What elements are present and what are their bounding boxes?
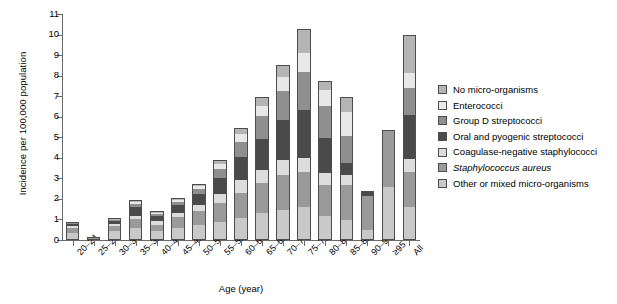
bar-segment: [256, 116, 268, 138]
legend-item[interactable]: Oral and pyogenic streptococci: [438, 129, 616, 145]
bar-segment: [214, 194, 226, 203]
legend-item[interactable]: Other or mixed micro-organisms: [438, 176, 616, 192]
bar-segment: [256, 139, 268, 170]
bar-segment: [277, 210, 289, 239]
legend-item-label: No micro-organisms: [453, 85, 538, 95]
bar-segment: [341, 98, 353, 112]
bar-6064[interactable]: [234, 128, 248, 240]
bar-7579[interactable]: [297, 29, 311, 240]
y-tick-label: 7: [54, 90, 59, 101]
legend-item-label: Other or mixed micro-organisms: [453, 179, 589, 189]
bar-segment: [214, 222, 226, 239]
bar-segment: [319, 173, 331, 185]
stacked-bar-chart-figure: Incidence per 100,000 population 0123456…: [0, 0, 617, 304]
bar-2024[interactable]: [66, 222, 80, 240]
x-tick-mark: [73, 241, 74, 246]
legend-item[interactable]: Staphylococcus aureus: [438, 160, 616, 176]
bar-5054[interactable]: [192, 184, 206, 241]
bar-segment: [319, 138, 331, 174]
bar-segment: [256, 213, 268, 239]
y-tick-label: 3: [54, 172, 59, 183]
y-tick-label: 5: [54, 131, 59, 142]
bar-5559[interactable]: [213, 160, 227, 240]
bar-2529[interactable]: [87, 237, 101, 240]
y-axis-line: [62, 14, 63, 240]
bar-4549[interactable]: [171, 198, 185, 240]
bar-segment: [319, 82, 331, 90]
legend-item-label: Oral and pyogenic streptococci: [453, 132, 583, 142]
bar-segment: [256, 106, 268, 116]
bar-segment: [383, 187, 395, 239]
x-tick-mark: [241, 241, 242, 246]
bar-segment: [362, 230, 374, 239]
y-tick-label: 0: [54, 234, 59, 245]
bar-segment: [109, 231, 121, 239]
bar-segment: [319, 106, 331, 137]
bar-4044[interactable]: [150, 211, 164, 240]
bar-segment: [404, 207, 416, 239]
x-tick-mark: [199, 241, 200, 246]
bar-segment: [130, 219, 142, 228]
bar-8589[interactable]: [340, 97, 354, 240]
legend-item[interactable]: Group D streptococci: [438, 113, 616, 129]
bar-segment: [404, 36, 416, 74]
y-tick-label: 10: [48, 28, 59, 39]
x-tick-mark: [136, 241, 137, 246]
y-axis-title: Incidence per 100,000 population: [17, 14, 28, 234]
bar-95[interactable]: [382, 130, 396, 240]
x-tick-mark: [220, 241, 221, 246]
y-tick-label: 2: [54, 192, 59, 203]
bar-segment: [319, 216, 331, 239]
bar-segment: [319, 90, 331, 106]
x-tick-mark: [367, 241, 368, 246]
bar-segment: [298, 72, 310, 110]
bar-segment: [256, 170, 268, 183]
y-tick-label: 1: [54, 213, 59, 224]
bar-segment: [172, 217, 184, 228]
legend-item[interactable]: No micro-organisms: [438, 82, 616, 98]
bar-9094[interactable]: [361, 191, 375, 240]
legend-swatch-icon: [438, 179, 447, 188]
x-tick-mark: [283, 241, 284, 246]
x-tick-label: ≥95: [390, 239, 408, 257]
x-tick-mark: [178, 241, 179, 246]
bar-segment: [172, 228, 184, 239]
bar-segment: [193, 194, 205, 205]
x-tick-label: All: [411, 243, 425, 257]
bar-segment: [256, 183, 268, 212]
plot-area: 01234567891011 20–2425–2930–3435–3940–44…: [62, 14, 420, 240]
legend-item-label: Enterococci: [453, 101, 503, 111]
bar-3034[interactable]: [108, 218, 122, 240]
legend-swatch-icon: [438, 132, 447, 141]
bar-8084[interactable]: [318, 81, 332, 240]
bar-segment: [130, 207, 142, 216]
y-tick-label: 11: [49, 8, 59, 19]
bar-segment: [383, 131, 395, 186]
legend-swatch-icon: [438, 148, 447, 157]
bar-segment: [67, 233, 79, 239]
bar-segment: [214, 178, 226, 194]
bar-segment: [151, 225, 163, 232]
legend-item[interactable]: Coagulase-negative staphylococci: [438, 144, 616, 160]
bar-segment: [235, 180, 247, 192]
bar-3539[interactable]: [129, 200, 143, 240]
bar-All[interactable]: [403, 35, 417, 240]
bar-segment: [404, 115, 416, 159]
bar-segment: [256, 98, 268, 106]
bar-segment: [235, 218, 247, 239]
x-tick-mark: [262, 241, 263, 246]
bar-segment: [277, 120, 289, 160]
x-tick-mark: [115, 241, 116, 246]
bar-6569[interactable]: [255, 97, 269, 240]
x-tick-mark: [157, 241, 158, 246]
bar-segment: [298, 30, 310, 52]
bar-segment: [362, 196, 374, 231]
x-tick-mark: [409, 241, 410, 246]
x-axis-title: Age (year): [62, 283, 420, 294]
bar-segment: [277, 160, 289, 175]
bar-7074[interactable]: [276, 65, 290, 240]
bar-segment: [235, 157, 247, 180]
legend-item[interactable]: Enterococci: [438, 98, 616, 114]
bar-segment: [404, 88, 416, 114]
bar-segment: [341, 163, 353, 175]
